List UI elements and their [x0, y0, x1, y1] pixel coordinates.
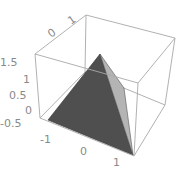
z-axis-ticks: 1.5 1 0.5 0 -0.5 [0, 56, 32, 130]
z-tick-label: 0 [25, 104, 32, 117]
y-tick-label: 0 [45, 26, 58, 41]
z-tick-label: 1.5 [0, 56, 18, 69]
plot-3d: 1.5 1 0.5 0 -0.5 -1 0 1 0 1 [0, 0, 181, 171]
z-tick-label: 0.5 [9, 89, 27, 102]
x-tick-label: 0 [80, 145, 87, 158]
z-tick-label: 1 [23, 73, 30, 86]
y-tick-label: 1 [65, 13, 78, 28]
x-tick-label: -1 [40, 133, 51, 146]
pyramid [48, 54, 133, 155]
x-tick-label: 1 [113, 156, 120, 169]
y-axis-ticks: 0 1 [45, 13, 78, 41]
z-tick-label: -0.5 [0, 117, 21, 130]
